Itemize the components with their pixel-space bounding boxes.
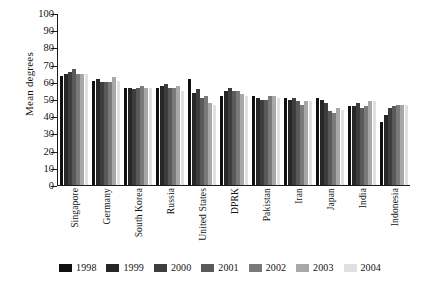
y-tick-label: 50 (44, 92, 55, 107)
bar-group (186, 14, 218, 185)
x-label-cell: Pakistan (250, 188, 282, 254)
y-tick-label: 100 (38, 6, 54, 21)
bar (300, 105, 303, 185)
bar (288, 100, 291, 186)
bar (136, 88, 139, 185)
bar (304, 101, 307, 185)
bar (364, 106, 367, 185)
bar (388, 108, 391, 185)
bar (164, 84, 167, 185)
bar (368, 101, 371, 185)
bar (72, 69, 75, 185)
x-label-cell: Russia (154, 188, 186, 254)
bar (232, 91, 235, 185)
bar (396, 105, 399, 185)
bar (124, 88, 127, 185)
bar-group (314, 14, 346, 185)
bar (380, 122, 383, 185)
legend-swatch (106, 264, 119, 272)
x-axis-line (57, 185, 410, 186)
y-axis-title: Mean degrees (23, 19, 35, 149)
legend-swatch (201, 264, 214, 272)
bar (76, 74, 79, 185)
x-label-cell: India (346, 188, 378, 254)
y-tick-label: 10 (44, 161, 55, 176)
bar (320, 100, 323, 186)
x-axis-label: India (357, 188, 368, 208)
bar (140, 86, 143, 185)
bar (264, 100, 267, 186)
bar-group (58, 14, 90, 185)
legend-item: 2000 (154, 262, 191, 273)
bar-group (250, 14, 282, 185)
x-axis-label: South Korea (133, 188, 144, 237)
bar (332, 113, 335, 185)
bar (188, 79, 191, 185)
y-tick-label: 60 (44, 75, 55, 90)
bar (373, 101, 376, 185)
bar (384, 115, 387, 185)
bar (92, 81, 95, 185)
bar (181, 91, 184, 185)
legend-swatch (296, 264, 309, 272)
legend-label: 2004 (361, 262, 381, 273)
bar (108, 82, 111, 185)
bar (85, 74, 88, 185)
bar (220, 96, 223, 185)
bar-group (346, 14, 378, 185)
bar (192, 93, 195, 185)
bar (284, 98, 287, 185)
x-label-cell: DPRK (218, 188, 250, 254)
bar (200, 98, 203, 185)
x-axis-label: Pakistan (261, 188, 272, 221)
bar (213, 105, 216, 185)
x-axis-label: Germany (101, 188, 112, 224)
bar (60, 76, 63, 185)
bar (352, 106, 355, 185)
bar (208, 103, 211, 185)
bar (336, 108, 339, 185)
legend-label: 2001 (218, 262, 238, 273)
legend-swatch (59, 264, 72, 272)
bar (400, 105, 403, 185)
bar (168, 88, 171, 185)
chart-legend: 1998199920002001200220032004 (0, 262, 440, 273)
legend-item: 1999 (106, 262, 143, 273)
x-axis-label: Iran (293, 188, 304, 204)
y-tick-label: 80 (44, 40, 55, 55)
bar (128, 88, 131, 185)
bar-group (218, 14, 250, 185)
bar (236, 91, 239, 185)
bar (309, 101, 312, 185)
legend-swatch (344, 264, 357, 272)
legend-swatch (249, 264, 262, 272)
bar-groups (58, 14, 410, 185)
bar (405, 105, 408, 185)
bar (196, 89, 199, 185)
bar (277, 98, 280, 185)
bar (100, 82, 103, 185)
bar (296, 101, 299, 185)
bar (341, 110, 344, 185)
plot-area: 0102030405060708090100 (57, 14, 410, 186)
legend-label: 2000 (171, 262, 191, 273)
legend-label: 2003 (313, 262, 333, 273)
x-label-cell: Singapore (58, 188, 90, 254)
legend-label: 2002 (266, 262, 286, 273)
y-tick-label: 20 (44, 144, 55, 159)
bar (117, 81, 120, 185)
legend-item: 2003 (296, 262, 333, 273)
legend-item: 2001 (201, 262, 238, 273)
bar (204, 96, 207, 185)
x-axis-label: Singapore (69, 188, 80, 228)
x-axis-label: DPRK (229, 188, 240, 214)
x-axis-label: Indonesia (389, 188, 400, 226)
bar (256, 98, 259, 185)
x-label-cell: Indonesia (378, 188, 410, 254)
y-tick-label: 70 (44, 58, 55, 73)
bar (172, 88, 175, 185)
bar (176, 86, 179, 185)
bar (268, 96, 271, 185)
x-axis-label: Japan (325, 188, 336, 210)
legend-swatch (154, 264, 167, 272)
